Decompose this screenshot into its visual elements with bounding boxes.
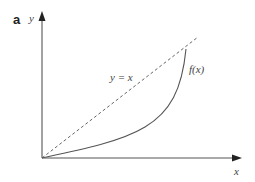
identity-line-label: y = x <box>109 71 133 83</box>
function-curve <box>42 49 186 158</box>
panel-label: a <box>13 12 21 27</box>
curve-label: f(x) <box>189 63 205 76</box>
x-axis-arrow-icon <box>232 155 242 162</box>
x-axis-label: x <box>233 165 239 177</box>
identity-line <box>42 37 198 158</box>
diagram-canvas: a y x y = x f(x) <box>0 0 255 182</box>
y-axis-label: y <box>28 12 34 24</box>
y-axis-arrow-icon <box>39 11 46 21</box>
